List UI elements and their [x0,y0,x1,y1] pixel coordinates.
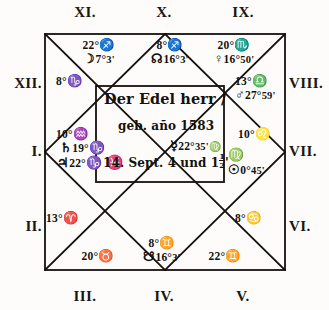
house-label-xi: XI. [62,4,108,21]
house-label-ix: IX. [220,4,266,21]
cusp-ii: 13°♈ [46,211,106,225]
cusp-iii: 20°♉ [69,249,127,263]
inscription-date-suffix: ' [225,156,229,170]
house-label-iv: IV. [141,288,187,305]
cell-house-vii: 10°♌ [238,127,298,141]
cusp-vi: 8°♋ [235,211,295,225]
central-inscription: Der Edel herr / geb. año 1583 ☿22°35'♍ 1… [96,86,224,182]
cusp-ix: 20°♏ [203,38,265,52]
planet-south-node: ☋16°3' [133,250,191,265]
house-label-ii: II. [2,218,42,235]
inscription-born: geb. año 1583 [118,119,214,133]
planet-sun: ☉0°45' [228,163,298,178]
cusp-iv: 8°♊ [133,236,191,250]
house-label-v: V. [220,288,266,305]
planet-mars: ♂27°59' [235,88,305,103]
cell-house-x: 8°♐ ☊16°3' [141,38,199,67]
house-label-i: I. [2,143,42,160]
cell-house-iv: 8°♊ ☋16°3' [133,236,191,265]
inscription-date: 14. Sept. 4 und 112' [103,152,229,170]
inscription-title: Der Edel herr / [104,90,226,107]
cusp-x: 8°♐ [141,38,199,52]
house-label-xii: XII. [2,75,42,92]
planet-moon: ☽7°3' [70,52,128,67]
cusp-v: 22°♊ [196,249,254,263]
cell-house-v: 22°♊ [196,249,254,263]
cell-house-ii: 13°♈ [46,211,106,225]
planet-north-node: ☊16°3' [141,52,199,67]
cell-house-xi: 22°♐ ☽7°3' [70,38,128,67]
cell-house-ix: 20°♏ ♀16°50' [203,38,265,67]
cusp-viii: 13°♎ [235,74,305,88]
cell-house-viii: 13°♎ ♂27°59' [235,74,305,103]
inscription-date-text: 14. Sept. 4 und 1 [103,156,219,170]
cusp-vii: 10°♌ [238,127,298,141]
house-label-vi: VI. [289,218,329,235]
sun-sign: ♍ [228,148,298,163]
horoscope-chart-page: XI. X. IX. XII. I. II. VIII. VII. VI. II… [0,0,329,310]
house-label-iii: III. [62,288,108,305]
cell-house-vi: 8°♋ [235,211,295,225]
planet-venus: ♀16°50' [203,52,265,67]
cell-sun-entry: ♍ ☉0°45' [228,148,298,177]
cusp-xi: 22°♐ [70,38,128,52]
house-label-x: X. [141,4,187,21]
cell-house-iii: 20°♉ [69,249,127,263]
